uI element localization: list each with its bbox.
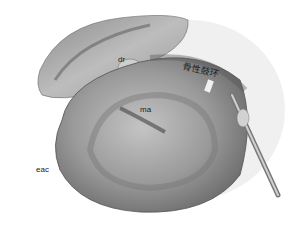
label-dr: dr [118, 56, 125, 64]
illustration-canvas: dr ma eac 骨性鼓环 [0, 0, 295, 232]
ear-anatomy-drawing [0, 0, 295, 232]
label-eac: eac [36, 166, 49, 174]
label-ma: ma [140, 106, 151, 114]
